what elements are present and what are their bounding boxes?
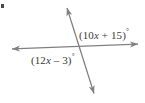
upper-right-label-degree: ° xyxy=(126,27,129,36)
upper-right-label-suffix: + 15) xyxy=(99,29,126,41)
diagonal-line xyxy=(67,8,94,94)
lower-left-angle-label: (12x – 3)° xyxy=(31,55,75,66)
lower-left-label-suffix: – 3) xyxy=(51,54,72,66)
horizontal-line xyxy=(12,44,138,49)
geometry-figure: (10x + 15)° (12x – 3)° xyxy=(0,0,145,103)
corner-artifact-mark xyxy=(1,4,4,8)
lower-left-label-degree: ° xyxy=(72,52,75,61)
upper-right-angle-label: (10x + 15)° xyxy=(79,30,129,41)
upper-right-label-prefix: (10 xyxy=(79,29,94,41)
lower-left-label-prefix: (12 xyxy=(31,54,46,66)
